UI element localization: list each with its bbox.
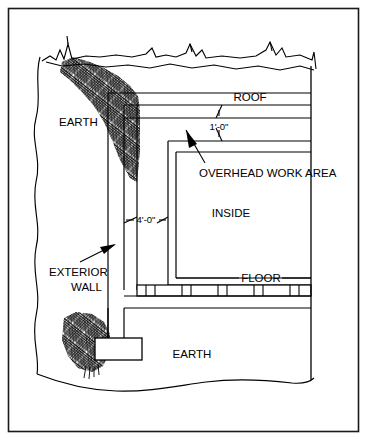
roof-label: ROOF	[233, 91, 266, 103]
earth-label-lower: EARTH	[173, 348, 212, 360]
crawl-space-dimension-label: 4'-0"	[137, 214, 156, 225]
exterior-wall-label-line2: WALL	[71, 281, 102, 293]
inside-label: INSIDE	[212, 207, 251, 219]
footing	[95, 338, 142, 360]
exterior-wall-label-line1: EXTERIOR	[49, 266, 108, 278]
earth-label-upper: EARTH	[59, 116, 98, 128]
section-drawing: ROOF 1'-0" OVERHEAD WORK AREA INSIDE 4'-…	[0, 0, 367, 440]
diagram-canvas: ROOF 1'-0" OVERHEAD WORK AREA INSIDE 4'-…	[0, 0, 367, 440]
overhead-clearance-label: 1'-0"	[210, 121, 229, 132]
floor-label: FLOOR	[241, 272, 281, 284]
overhead-work-area-label: OVERHEAD WORK AREA	[199, 167, 337, 179]
